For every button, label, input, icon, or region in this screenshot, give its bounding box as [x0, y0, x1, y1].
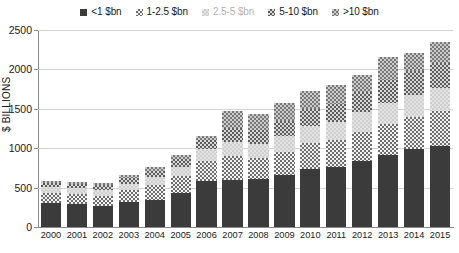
legend-item[interactable]: <1 $bn — [80, 7, 121, 17]
bar-stack[interactable] — [171, 155, 191, 227]
bar-segment — [222, 111, 242, 128]
bar-segment — [171, 159, 191, 166]
bar-segment — [274, 152, 294, 176]
bar-segment — [352, 161, 372, 227]
legend-label: 1-2.5 $bn — [147, 7, 188, 17]
legend-item[interactable]: >10 $bn — [332, 7, 379, 17]
bar-stack[interactable] — [430, 42, 450, 227]
bar-stack[interactable] — [196, 136, 216, 227]
bar-segment — [404, 117, 424, 150]
bar-segment — [248, 144, 268, 158]
y-tick-label: 1500 — [9, 104, 32, 115]
bar-stack[interactable] — [300, 91, 320, 227]
bar-segment — [196, 181, 216, 227]
legend-item[interactable]: 1-2.5 $bn — [136, 7, 188, 17]
stacked-bar-chart: <1 $bn1-2.5 $bn2.5-5 $bn5-10 $bn>10 $bn … — [0, 0, 459, 253]
bar-stack[interactable] — [41, 181, 61, 227]
bar-segment — [326, 122, 346, 140]
x-tick-label: 2014 — [401, 229, 427, 241]
legend-swatch-icon — [332, 9, 339, 16]
bar-segment — [248, 179, 268, 227]
legend-swatch-icon — [136, 9, 143, 16]
x-tick-label: 2013 — [375, 229, 401, 241]
bar-stack[interactable] — [145, 167, 165, 227]
bar-segment — [300, 143, 320, 169]
bar-segment — [93, 206, 113, 227]
bar-segment — [274, 136, 294, 151]
x-tick-label: 2006 — [194, 229, 220, 241]
x-tick-label: 2003 — [116, 229, 142, 241]
bar-segment — [41, 203, 61, 227]
bar-stack[interactable] — [119, 175, 139, 227]
bar-segment — [274, 103, 294, 121]
bar-segment — [378, 57, 398, 80]
plot-area: 05001000150020002500 — [38, 30, 453, 227]
y-tick-label: 2000 — [9, 64, 32, 75]
bar-segment — [119, 190, 139, 202]
bar-segment — [67, 194, 87, 205]
x-tick-label: 2011 — [323, 229, 349, 241]
bar-segment — [326, 85, 346, 104]
bar-stack[interactable] — [222, 111, 242, 227]
bar-segment — [300, 126, 320, 143]
x-tick-label: 2012 — [349, 229, 375, 241]
bar-segment — [222, 128, 242, 142]
bar-segment — [352, 92, 372, 112]
bar-segment — [404, 95, 424, 117]
x-tick-label: 2010 — [297, 229, 323, 241]
legend-item[interactable]: 5-10 $bn — [268, 7, 318, 17]
bar-stack[interactable] — [93, 183, 113, 227]
legend-swatch-icon — [202, 9, 209, 16]
y-tick-mark — [34, 227, 38, 228]
x-tick-label: 2009 — [271, 229, 297, 241]
x-tick-label: 2008 — [246, 229, 272, 241]
bar-stack[interactable] — [248, 114, 268, 227]
legend-item[interactable]: 2.5-5 $bn — [202, 7, 254, 17]
y-tick-label: 2500 — [9, 25, 32, 36]
bar-segment — [145, 171, 165, 178]
bar-stack[interactable] — [326, 85, 346, 227]
bar-stack[interactable] — [352, 75, 372, 227]
bar-segment — [404, 149, 424, 227]
bar-segment — [171, 176, 191, 193]
bar-segment — [119, 202, 139, 227]
x-tick-label: 2007 — [220, 229, 246, 241]
bar-segment — [352, 75, 372, 92]
x-tick-label: 2002 — [90, 229, 116, 241]
bar-segment — [378, 103, 398, 124]
x-tick-label: 2004 — [142, 229, 168, 241]
bar-segment — [248, 130, 268, 144]
bar-stack[interactable] — [378, 57, 398, 227]
bar-segment — [378, 124, 398, 156]
bar-segment — [352, 132, 372, 162]
bar-segment — [326, 140, 346, 167]
x-axis-labels: 2000200120022003200420052006200720082009… — [38, 229, 453, 245]
x-tick-label: 2015 — [427, 229, 453, 241]
bar-segment — [248, 158, 268, 179]
bar-segment — [326, 104, 346, 122]
bar-segment — [67, 204, 87, 227]
bar-segment — [222, 156, 242, 180]
x-tick-label: 2000 — [38, 229, 64, 241]
x-tick-label: 2001 — [64, 229, 90, 241]
y-tick-label: 1000 — [9, 143, 32, 154]
bar-stack[interactable] — [404, 53, 424, 227]
bar-stack[interactable] — [67, 182, 87, 227]
bar-segment — [248, 114, 268, 130]
legend-swatch-icon — [268, 9, 275, 16]
bar-segment — [300, 169, 320, 227]
x-axis-line — [38, 227, 454, 228]
bar-stack[interactable] — [274, 103, 294, 227]
bar-segment — [145, 185, 165, 200]
bar-segment — [222, 142, 242, 156]
bar-segment — [300, 109, 320, 126]
legend-label: 5-10 $bn — [279, 7, 318, 17]
bar-segment — [274, 175, 294, 227]
bar-segment — [196, 149, 216, 161]
bar-segment — [93, 196, 113, 207]
legend-label: <1 $bn — [91, 7, 121, 17]
bar-segment — [196, 140, 216, 149]
bar-segment — [222, 180, 242, 227]
bar-segment — [430, 111, 450, 146]
legend-label: >10 $bn — [343, 7, 379, 17]
